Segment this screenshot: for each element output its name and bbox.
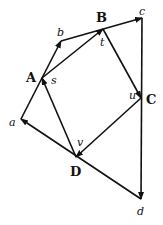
- midpoint-label-s: s: [51, 74, 57, 87]
- point-label-c: c: [139, 5, 145, 18]
- vector-C-D: [76, 98, 141, 157]
- vector-A-b: [42, 41, 61, 78]
- vector-d-a: [21, 119, 141, 199]
- point-label-C: C: [146, 92, 156, 107]
- midpoint-label-v: v: [77, 136, 84, 149]
- point-label-D: D: [70, 164, 81, 179]
- vector-A-B: [42, 29, 103, 78]
- point-label-d: d: [137, 205, 144, 218]
- point-label-A: A: [25, 70, 37, 85]
- vector-B-C: [103, 29, 141, 98]
- edges-group: [21, 18, 142, 199]
- vector-diagram: ABCDabcdstuv: [0, 0, 163, 225]
- midpoint-label-t: t: [100, 36, 105, 49]
- point-label-a: a: [9, 116, 16, 129]
- vector-c-d: [141, 18, 142, 199]
- labels-group: ABCDabcdstuv: [9, 5, 156, 218]
- point-label-B: B: [96, 10, 107, 25]
- midpoint-label-u: u: [129, 89, 136, 102]
- point-label-b: b: [57, 26, 64, 39]
